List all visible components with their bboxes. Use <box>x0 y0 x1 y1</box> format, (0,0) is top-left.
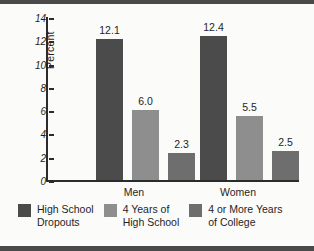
bar: 2.3 <box>168 153 195 180</box>
bar: 12.4 <box>200 36 227 180</box>
bar-value-label: 2.5 <box>278 136 293 148</box>
bar: 12.1 <box>96 39 123 180</box>
legend-swatch-icon <box>18 204 31 217</box>
bar-value-label: 6.0 <box>138 95 153 107</box>
legend-item[interactable]: 4 or More Years of College <box>189 203 282 228</box>
y-tick-mark <box>49 181 54 183</box>
group-label-men: Men <box>94 186 174 198</box>
y-tick-label: 12 <box>35 37 49 47</box>
legend-label: 4 or More Years of College <box>208 203 282 228</box>
top-rule <box>0 0 314 4</box>
legend-swatch-icon <box>189 204 202 217</box>
legend-item[interactable]: High School Dropouts <box>18 203 94 228</box>
bar-group-container: 12.16.02.312.45.52.5 <box>48 17 299 180</box>
legend-label: 4 Years of High School <box>123 203 180 228</box>
y-tick-label: 10 <box>35 61 49 71</box>
bar-value-label: 2.3 <box>174 138 189 150</box>
bar: 5.5 <box>236 116 263 180</box>
group-label-women: Women <box>198 186 278 198</box>
legend-label: High School Dropouts <box>37 203 94 228</box>
x-axis-line <box>46 180 299 182</box>
bar: 2.5 <box>272 151 299 180</box>
legend-swatch-icon <box>104 204 117 217</box>
bottom-rule <box>0 246 314 251</box>
legend-item[interactable]: 4 Years of High School <box>104 203 180 228</box>
bar-value-label: 12.1 <box>99 24 119 36</box>
y-tick-label: 14 <box>35 14 49 24</box>
chart-legend: High School Dropouts4 Years of High Scho… <box>18 203 302 228</box>
bar-value-label: 5.5 <box>242 101 257 113</box>
bar: 6.0 <box>132 110 159 180</box>
plot-area: Percent 02468101214 12.16.02.312.45.52.5 <box>46 17 299 182</box>
chart-figure: Percent 02468101214 12.16.02.312.45.52.5… <box>0 0 314 251</box>
bar-value-label: 12.4 <box>203 21 223 33</box>
